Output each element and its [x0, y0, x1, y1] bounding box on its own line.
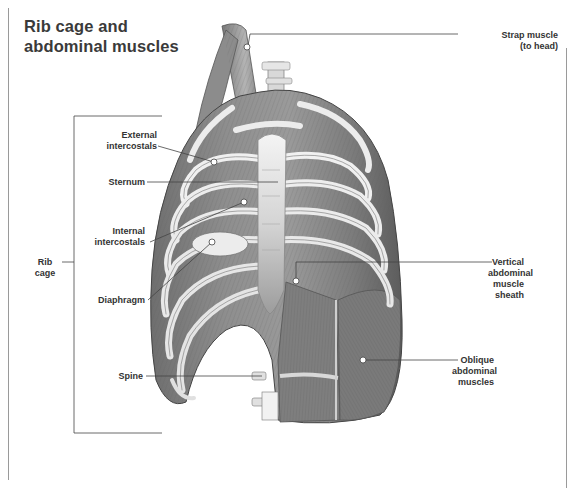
label-diaphragm: Diaphragm	[80, 295, 145, 306]
label-spine: Spine	[90, 371, 143, 382]
label-external-intercostals: External intercostals	[80, 130, 157, 152]
callout-dot-strap	[244, 44, 250, 50]
label-vertical-sheath-line1: Vertical	[488, 257, 524, 268]
label-vertical-sheath-line3: muscle	[488, 279, 524, 290]
label-vertical-sheath-line4: sheath	[488, 290, 524, 301]
label-external-intercostals-line1: External	[80, 130, 157, 141]
label-internal-intercostals-line2: intercostals	[80, 237, 145, 248]
callout-dot-vertical-sheath	[293, 278, 299, 284]
label-strap-muscle-line1: Strap muscle	[472, 30, 558, 41]
vertical-sheath-shape	[278, 282, 340, 422]
label-diaphragm-line1: Diaphragm	[80, 295, 145, 306]
label-sternum-line1: Sternum	[80, 177, 145, 188]
callout-dot-diaphragm	[209, 239, 215, 245]
sternum-shape	[258, 134, 286, 314]
label-rib-cage-line2: cage	[28, 268, 62, 279]
label-internal-intercostals: Internal intercostals	[80, 226, 145, 248]
label-vertical-sheath: Vertical abdominal muscle sheath	[488, 257, 524, 301]
label-vertical-sheath-line2: abdominal	[488, 268, 524, 279]
label-oblique-line1: Oblique	[452, 355, 494, 366]
label-internal-intercostals-line1: Internal	[80, 226, 145, 237]
label-strap-muscle-line2: (to head)	[472, 41, 558, 52]
label-sternum: Sternum	[80, 177, 145, 188]
label-rib-cage-line1: Rib	[28, 257, 62, 268]
label-oblique: Oblique abdominal muscles	[452, 355, 494, 388]
label-oblique-line2: abdominal	[452, 366, 494, 377]
label-oblique-line3: muscles	[452, 377, 494, 388]
callout-dot-internal-intercostals	[241, 199, 247, 205]
callout-dot-external-intercostals	[211, 159, 217, 165]
callout-dot-oblique	[360, 357, 366, 363]
label-rib-cage: Rib cage	[28, 257, 62, 279]
label-spine-line1: Spine	[90, 371, 143, 382]
label-external-intercostals-line2: intercostals	[80, 141, 157, 152]
label-strap-muscle: Strap muscle (to head)	[472, 30, 558, 52]
